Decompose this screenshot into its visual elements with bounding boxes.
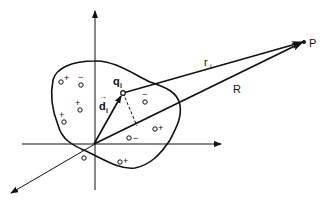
svg-text:+: +: [123, 156, 128, 166]
charge-q-i: [121, 91, 126, 96]
label-P: P: [309, 37, 316, 49]
label-r: r: [204, 56, 208, 68]
label-r-sub: i: [210, 63, 212, 70]
label-q: q: [113, 75, 120, 87]
charge-negative: −: [127, 133, 138, 143]
charge-distribution-diagram: P q i → d i r i R + − + + − + − − +: [0, 0, 328, 208]
charge-positive: +: [59, 110, 66, 124]
charge-negative: −: [81, 145, 86, 160]
label-q-sub: i: [120, 82, 122, 89]
label-R: R: [233, 83, 241, 95]
svg-text:−: −: [78, 72, 83, 82]
field-point-P: [302, 40, 306, 44]
svg-text:+: +: [75, 98, 80, 108]
label-d: d: [99, 100, 106, 112]
charge-positive: +: [153, 123, 163, 133]
svg-text:−: −: [142, 89, 147, 99]
svg-text:+: +: [59, 110, 64, 120]
svg-text:−: −: [81, 145, 86, 155]
charge-positive: +: [59, 73, 69, 84]
charge-negative: −: [78, 72, 83, 87]
svg-text:+: +: [158, 123, 163, 133]
charge-negative: −: [142, 89, 147, 104]
projection-dashed-line: [123, 93, 137, 126]
charge-positive: +: [75, 98, 82, 112]
svg-text:+: +: [64, 73, 69, 83]
svg-text:−: −: [133, 133, 138, 143]
charge-positive: +: [118, 156, 128, 166]
label-d-sub: i: [106, 107, 108, 114]
